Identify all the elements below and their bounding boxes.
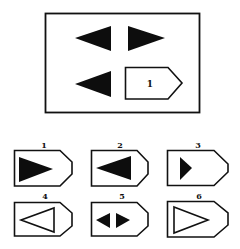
option-2[interactable]: 2 bbox=[92, 140, 149, 186]
option-4[interactable]: 4 bbox=[15, 191, 73, 236]
puzzle-canvas: 1 1 2 3 4 5 6 bbox=[0, 0, 240, 249]
answer-slot-label: 1 bbox=[147, 79, 153, 89]
option-3-tag-shape bbox=[168, 151, 229, 186]
option-5-label: 5 bbox=[119, 191, 125, 201]
option-6[interactable]: 6 bbox=[168, 191, 229, 237]
matrix-frame bbox=[46, 14, 200, 113]
option-2-label: 2 bbox=[117, 140, 123, 150]
option-4-label: 4 bbox=[42, 191, 48, 201]
question-matrix: 1 bbox=[46, 14, 200, 113]
option-1[interactable]: 1 bbox=[15, 140, 73, 186]
option-6-label: 6 bbox=[196, 191, 202, 201]
option-3-label: 3 bbox=[195, 140, 201, 150]
option-5[interactable]: 5 bbox=[92, 191, 149, 236]
option-1-label: 1 bbox=[41, 140, 47, 150]
option-3[interactable]: 3 bbox=[168, 140, 229, 186]
